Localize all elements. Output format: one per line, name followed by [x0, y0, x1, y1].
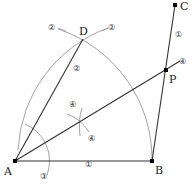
step-marker-1-BC: ① [175, 30, 182, 39]
label-B: B [155, 164, 163, 177]
step-marker-1-AB: ① [85, 160, 92, 169]
point-C [173, 3, 177, 7]
step-marker-2-left: ② [48, 23, 55, 32]
ray-AP [15, 61, 180, 161]
arc-centered-A [58, 29, 152, 161]
label-A: A [3, 165, 13, 178]
step-marker-4-bottom: ④ [88, 134, 95, 143]
step-marker-4-ray: ④ [179, 57, 186, 66]
step-marker-4-top: ④ [69, 100, 76, 109]
arc-angle-bisector-base [25, 124, 50, 175]
point-B [150, 159, 154, 163]
label-D: D [79, 25, 88, 38]
point-A [13, 159, 17, 163]
geometry-construction-diagram: A B C D P ① ① ② ② ② ③ ④ ④ ④ [0, 0, 196, 192]
step-marker-2-AD: ② [73, 64, 80, 73]
point-P [164, 68, 168, 72]
step-marker-2-right: ② [108, 23, 115, 32]
label-C: C [180, 0, 188, 13]
step-marker-3: ③ [40, 172, 47, 181]
label-P: P [169, 73, 177, 86]
